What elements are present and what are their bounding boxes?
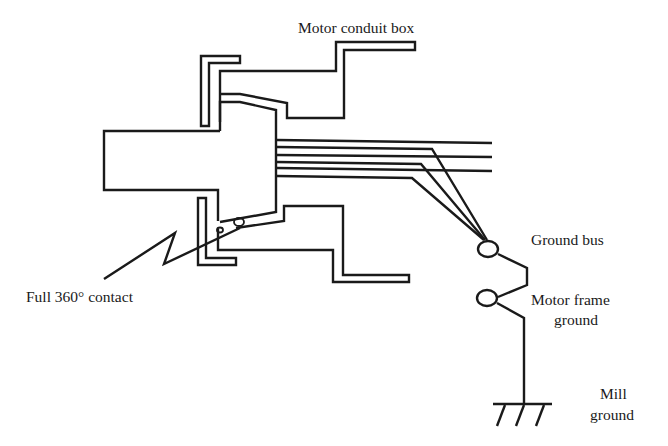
conduit-box-upper [220, 42, 415, 122]
motor-frame-ground-terminal-icon [477, 290, 497, 306]
label-ground-bus: Ground bus [531, 231, 604, 249]
label-full-contact: Full 360° contact [26, 288, 133, 306]
label-mill-ground-2: ground [590, 406, 634, 424]
earth-ground-icon [493, 404, 552, 426]
label-motor-frame-ground-1: Motor frame [531, 291, 610, 309]
contact-point-icon [217, 228, 223, 233]
motor-body [104, 102, 276, 222]
conductors [277, 140, 492, 240]
label-motor-conduit-box: Motor conduit box [298, 19, 414, 37]
ground-path [477, 241, 527, 404]
full-contact-pointer [104, 218, 244, 279]
label-motor-frame-ground-2: ground [554, 311, 598, 329]
ground-bus-terminal-icon [478, 241, 498, 257]
grounding-diagram [0, 0, 668, 446]
label-mill-ground-1: Mill [600, 385, 627, 403]
